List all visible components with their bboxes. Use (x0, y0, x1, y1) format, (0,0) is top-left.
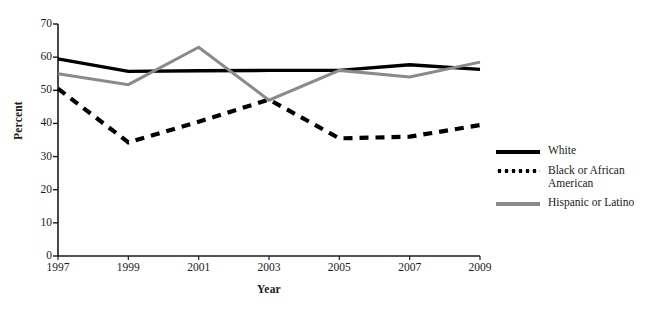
legend-entry[interactable]: White (496, 144, 648, 158)
y-tick-label: 60 (41, 51, 53, 63)
line-chart-figure: 010203040506070 199719992001200320052007… (0, 0, 652, 315)
x-axis-title: Year (58, 283, 480, 295)
y-tick-label: 20 (41, 184, 53, 196)
series-lines (58, 47, 480, 142)
y-axis-tick-labels: 010203040506070 (0, 24, 52, 256)
x-tick-label: 2009 (469, 262, 492, 274)
series-line-white (58, 59, 480, 72)
y-tick-label: 30 (41, 151, 53, 163)
legend-label: White (548, 144, 576, 157)
x-axis-tick-labels: 1997199920012003200520072009 (0, 262, 652, 278)
axis-spines (58, 24, 480, 256)
legend-swatch-solid-gray-icon (496, 196, 540, 210)
y-tick-label: 70 (41, 18, 53, 30)
legend-swatch-dotted-black-icon (496, 164, 540, 178)
y-tick-label: 10 (41, 217, 53, 229)
x-tick-label: 1999 (117, 262, 140, 274)
x-tick-label: 2001 (187, 262, 210, 274)
legend-entry[interactable]: Hispanic or Latino (496, 196, 648, 210)
chart-legend: WhiteBlack or African AmericanHispanic o… (496, 144, 648, 216)
legend-label: Black or African American (548, 164, 625, 190)
y-tick-label: 40 (41, 118, 53, 130)
series-line-hispanic-or-latino (58, 47, 480, 100)
y-tick-label: 50 (41, 85, 53, 97)
y-axis-title: Percent (12, 101, 24, 140)
series-line-black-or-african-american (58, 89, 480, 143)
legend-swatch-solid-black-icon (496, 144, 540, 158)
legend-entry[interactable]: Black or African American (496, 164, 648, 190)
legend-label: Hispanic or Latino (548, 196, 634, 209)
x-tick-label: 2005 (328, 262, 351, 274)
x-tick-label: 2007 (398, 262, 421, 274)
x-tick-label: 1997 (47, 262, 70, 274)
x-tick-label: 2003 (258, 262, 281, 274)
